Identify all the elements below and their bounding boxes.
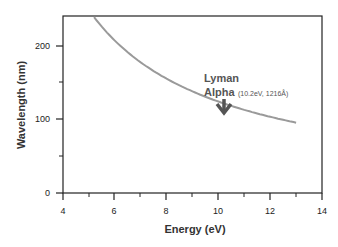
x-tick-label: 8 <box>163 206 168 216</box>
y-tick-label: 100 <box>35 114 50 124</box>
x-axis-title: Energy (eV) <box>164 223 225 235</box>
x-tick-label: 12 <box>265 206 275 216</box>
annotation-line2: Alpha <box>204 86 235 98</box>
x-tick-label: 10 <box>213 206 223 216</box>
data-line <box>94 17 296 123</box>
x-tick-label: 14 <box>317 206 327 216</box>
plot-frame <box>63 16 322 193</box>
x-tick-label: 4 <box>60 206 65 216</box>
x-axis: 4 6 8 10 12 14 <box>60 193 327 216</box>
x-tick-label: 6 <box>111 206 116 216</box>
y-axis-title: Wavelength (nm) <box>15 61 27 150</box>
y-tick-label: 0 <box>45 188 50 198</box>
chart: 0 100 200 4 6 8 10 12 14 Energy (eV) Wav… <box>0 0 338 247</box>
annotation-line1: Lyman <box>204 72 239 84</box>
annotation-detail: (10.2eV, 1216Å) <box>238 89 288 98</box>
y-axis: 0 100 200 <box>35 41 63 198</box>
y-tick-label: 200 <box>35 41 50 51</box>
